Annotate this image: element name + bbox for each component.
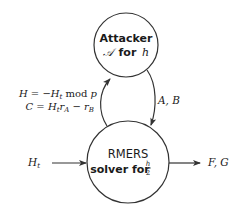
attacker-h-var: h bbox=[142, 46, 149, 59]
diagram-canvas: Attacker 𝒜 for h RMERS solver for h 2 H … bbox=[0, 0, 241, 211]
arrow-rmers-to-attacker bbox=[101, 79, 110, 126]
attacker-for-text: for bbox=[119, 46, 137, 59]
edge-label-h-equation: H = −Ht mod p bbox=[18, 88, 98, 101]
fraction-h-over-2: h 2 bbox=[145, 160, 151, 177]
edge-label-c-equation: C = HtrA − rB bbox=[26, 101, 95, 114]
attacker-node-subtitle: 𝒜 for h bbox=[103, 46, 149, 59]
rmers-node-title: RMERS bbox=[108, 147, 148, 161]
fraction-denominator: 2 bbox=[146, 169, 150, 177]
edge-label-a-b: A, B bbox=[157, 94, 180, 106]
rmers-node-subtitle: solver for bbox=[90, 163, 150, 176]
attacker-node: Attacker 𝒜 for h bbox=[94, 13, 158, 77]
rmers-node: RMERS solver for h 2 bbox=[87, 121, 169, 203]
input-label: Ht bbox=[27, 156, 40, 170]
output-label: F, G bbox=[207, 156, 229, 168]
arrow-attacker-to-rmers bbox=[147, 70, 155, 125]
fraction-numerator: h bbox=[146, 160, 151, 168]
attacker-symbol: 𝒜 bbox=[103, 46, 117, 59]
attacker-node-title: Attacker bbox=[100, 32, 153, 45]
